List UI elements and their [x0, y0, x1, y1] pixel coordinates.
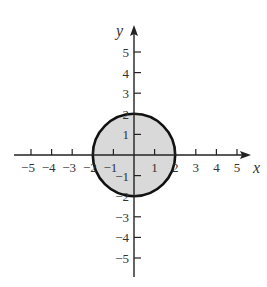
- x-tick-label: 2: [172, 160, 179, 175]
- x-tick-label: −4: [42, 160, 56, 175]
- x-tick-label: 1: [151, 160, 158, 175]
- x-tick-label: 4: [213, 160, 220, 175]
- y-tick-label: 4: [123, 66, 130, 81]
- x-tick-label: 5: [234, 160, 241, 175]
- y-tick-label: 3: [123, 86, 130, 101]
- y-tick-label: 2: [123, 107, 130, 122]
- y-tick-label: 1: [123, 127, 130, 142]
- y-tick-label: −1: [115, 169, 129, 184]
- x-tick-label: −2: [83, 160, 97, 175]
- x-tick-label: 3: [193, 160, 200, 175]
- y-tick-label: −5: [115, 251, 129, 266]
- x-tick-label: −3: [62, 160, 76, 175]
- x-tick-label: −5: [21, 160, 35, 175]
- circle-region-graph: −5−4−3−2−11234554321−1−2−3−4−5 x y: [0, 0, 267, 287]
- y-tick-label: −4: [115, 230, 129, 245]
- y-tick-label: −2: [115, 189, 129, 204]
- y-axis-label: y: [114, 22, 124, 40]
- y-tick-label: 5: [123, 45, 130, 60]
- x-axis-label: x: [252, 159, 260, 176]
- y-tick-label: −3: [115, 210, 129, 225]
